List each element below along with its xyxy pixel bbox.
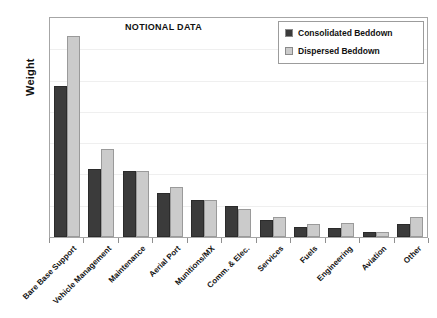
bar-dispersed <box>341 223 354 237</box>
x-axis-label-text: Fuels <box>299 244 320 265</box>
x-axis-label-text: Aerial Port <box>147 244 182 279</box>
bar-group <box>290 18 324 237</box>
bar-dispersed <box>410 217 423 237</box>
bar-dispersed <box>67 36 80 238</box>
x-axis-labels: Bare Base SupportVehicle ManagementMaint… <box>49 238 428 318</box>
bars-layer <box>50 18 427 237</box>
bar-group <box>221 18 255 237</box>
x-axis-label-text: Vehicle Management <box>51 244 113 306</box>
bar-consolidated <box>54 86 67 237</box>
x-axis-label-text: Other <box>402 244 423 265</box>
y-axis-title: Weight <box>24 36 38 96</box>
bar-dispersed <box>376 232 389 238</box>
bar-chart: Weight NOTIONAL DATA Consolidated Beddow… <box>0 0 437 318</box>
x-axis-label-text: Services <box>256 244 286 274</box>
y-axis-title-container: Weight <box>0 0 40 220</box>
bar-group <box>393 18 427 237</box>
bar-group <box>50 18 84 237</box>
plot-area: NOTIONAL DATA Consolidated Beddown Dispe… <box>49 17 428 238</box>
bar-group <box>358 18 392 237</box>
x-axis-label-text: Aviation <box>360 244 388 272</box>
plot-inner: NOTIONAL DATA Consolidated Beddown Dispe… <box>50 18 427 237</box>
bar-group <box>324 18 358 237</box>
bar-dispersed <box>307 224 320 237</box>
x-axis-label-text: Engineering <box>315 244 354 283</box>
bar-group <box>187 18 221 237</box>
